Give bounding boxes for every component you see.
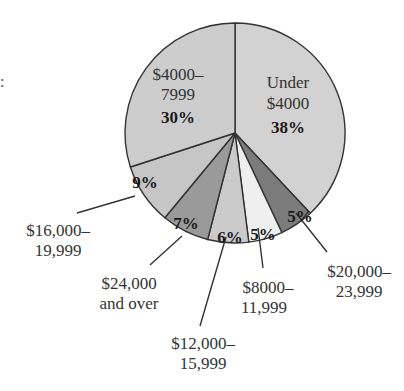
leader-line-12000: [200, 237, 226, 326]
label-4000-7999-line1: $4000–: [153, 65, 205, 84]
pct-4000-7999: 30%: [161, 108, 195, 127]
label-16000-line2: 19,999: [35, 241, 82, 260]
label-under-4000-line1: Under: [267, 73, 310, 92]
label-4000-7999-line2: 7999: [161, 85, 195, 104]
label-16000-line1: $16,000–: [26, 221, 90, 240]
label-12000-line2: 15,999: [180, 354, 227, 373]
leader-line-16000: [77, 196, 135, 213]
pct-12000-15999: 6%: [217, 228, 243, 247]
label-24000-line2: and over: [99, 294, 158, 313]
label-24000-line1: $24,000: [101, 274, 156, 293]
label-8000-line1: $8000–: [243, 278, 295, 297]
pct-16000-19999: 9%: [132, 173, 158, 192]
label-8000-line2: 11,999: [241, 298, 287, 317]
pct-under-4000: 38%: [271, 118, 305, 137]
pct-8000-11999: 5%: [250, 225, 276, 244]
label-20000-line2: 23,999: [336, 282, 383, 301]
pct-24000-over: 7%: [173, 214, 199, 233]
label-under-4000-line2: $4000: [267, 94, 310, 113]
leader-line-24000: [150, 236, 182, 265]
pct-20000-23999: 5%: [287, 207, 313, 226]
label-20000-line1: $20,000–: [327, 262, 391, 281]
pie-chart: Under $4000 38% $4000– 7999 30% 9% 7% 6%…: [0, 0, 404, 391]
label-12000-line1: $12,000–: [171, 334, 235, 353]
